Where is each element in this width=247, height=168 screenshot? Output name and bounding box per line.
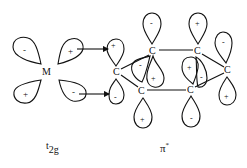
ring-lobe-sign-3: -: [150, 19, 153, 28]
metal-label: M: [42, 66, 51, 77]
caption-t2g: t2g: [46, 140, 59, 155]
carbon-label-1: C: [113, 66, 120, 77]
carbon-label-2: C: [149, 45, 156, 56]
orbital-diagram: M C C C C C C - + + - + - - + - + + - - …: [0, 0, 247, 168]
ring-lobe-sign-12: -: [200, 73, 203, 82]
ring-lobe-sign-1: +: [111, 41, 116, 50]
c2-lobe-up: [143, 13, 161, 44]
ring-lobe-sign-9: -: [139, 61, 142, 70]
caption-t2g-sub: 2g: [49, 144, 59, 155]
metal-lobe-sign-1: -: [23, 45, 26, 55]
ring-lobe-sign-6: +: [224, 92, 229, 101]
metal-lobe-top-left: [13, 37, 41, 64]
caption-pi-star: π*: [160, 141, 170, 154]
ring-lobe-sign-7: +: [140, 115, 145, 124]
carbon-label-6: C: [187, 84, 194, 95]
carbon-label-5: C: [138, 85, 145, 96]
metal-lobe-sign-4: -: [72, 87, 75, 97]
ring-lobe-sign-5: -: [222, 38, 225, 47]
metal-lobe-sign-2: +: [68, 46, 73, 56]
ring-lobe-sign-8: -: [190, 114, 193, 123]
ring-lobe-sign-2: -: [114, 93, 117, 102]
c4-lobe-up: [215, 32, 232, 63]
metal-lobe-sign-3: +: [23, 89, 28, 99]
ring-lobe-sign-11: +: [187, 63, 192, 72]
ring-lobe-sign-4: +: [195, 19, 200, 28]
orbital-diagram-svg: M C C C C C C - + + - + - - + - + + - - …: [0, 0, 247, 168]
carbon-label-3: C: [194, 45, 201, 56]
c3-lobe-up: [189, 13, 207, 44]
caption-star: *: [166, 141, 170, 149]
ring-lobe-sign-10: +: [151, 74, 156, 83]
carbon-label-4: C: [224, 64, 231, 75]
